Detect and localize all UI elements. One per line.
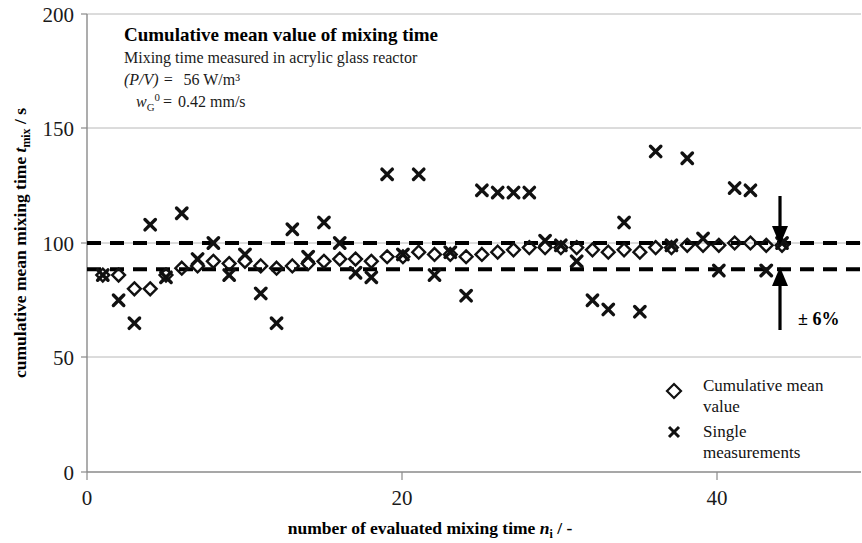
chart-title: Cumulative mean value of mixing time: [124, 24, 438, 45]
legend-label-cumulative-mean-line2: value: [703, 397, 740, 416]
x-axis-title-main: number of evaluated mixing time: [288, 518, 540, 538]
parameter-gas-velocity-value: 0.42 mm/s: [178, 93, 246, 110]
x-axis-title-unit: / -: [553, 518, 573, 538]
tolerance-band-label: ± 6%: [798, 309, 839, 329]
chart-subtitle: Mixing time measured in acrylic glass re…: [124, 49, 418, 67]
y-axis-title-unit: / s: [10, 108, 30, 129]
legend-label-single-measurements-line2: measurements: [703, 443, 800, 462]
y-axis-title-subscript: mix: [19, 128, 33, 147]
chart-figure: 200 150 100 50 0 0 20 40 cumulative mean…: [0, 0, 862, 543]
parameter-gas-velocity-superscript: 0: [155, 91, 161, 103]
parameter-power-volume-name: (P/V) =: [124, 71, 173, 89]
x-tick-label-20: 20: [392, 486, 413, 510]
y-axis-ticks: [81, 14, 87, 472]
parameter-power-volume-value: 56 W/m³: [183, 71, 240, 88]
y-tick-label-50: 50: [53, 346, 74, 370]
y-axis-title: cumulative mean mixing time tmix / s: [10, 108, 33, 378]
y-tick-label-200: 200: [43, 3, 75, 27]
parameter-gas-velocity-equals: =: [163, 93, 172, 110]
parameter-gas-velocity-symbol: w: [136, 93, 147, 110]
legend-label-cumulative-mean-line1: Cumulative mean: [703, 376, 824, 395]
x-tick-label-0: 0: [82, 486, 93, 510]
y-tick-label-0: 0: [64, 461, 75, 485]
y-axis-title-main: cumulative mean mixing time: [10, 152, 30, 378]
y-tick-label-150: 150: [43, 117, 75, 141]
x-tick-label-40: 40: [707, 486, 728, 510]
mixing-time-scatter-chart: 200 150 100 50 0 0 20 40 cumulative mean…: [0, 0, 862, 543]
x-axis-ticks: [87, 472, 717, 480]
y-tick-label-100: 100: [43, 232, 75, 256]
x-axis-title-symbol: n: [540, 518, 550, 538]
x-axis-title: number of evaluated mixing time ni / -: [288, 518, 573, 541]
legend-label-single-measurements-line1: Single: [703, 422, 746, 441]
parameter-gas-velocity-subscript: G: [147, 101, 155, 113]
